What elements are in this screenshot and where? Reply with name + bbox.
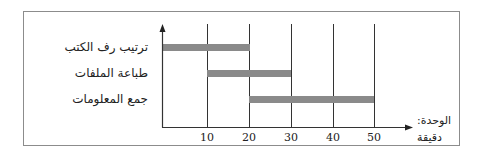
bar-task-2 bbox=[207, 70, 291, 77]
task-label-2: طباعة الملفات bbox=[75, 66, 148, 80]
tick-label-20: 20 bbox=[242, 131, 256, 144]
tick-label-10: 10 bbox=[200, 131, 214, 144]
tick-label-30: 30 bbox=[284, 131, 298, 144]
x-axis-arrow-icon bbox=[405, 125, 413, 131]
unit-label-line1: الوحدة: bbox=[417, 114, 451, 127]
tick-label-40: 40 bbox=[326, 131, 340, 144]
task-label-1: ترتيب رف الكتب bbox=[64, 40, 148, 54]
bar-task-3 bbox=[249, 96, 374, 103]
unit-label-line2: دقيقة bbox=[417, 131, 442, 144]
bar-task-1 bbox=[163, 44, 250, 51]
task-label-3: جمع المعلومات bbox=[72, 92, 148, 106]
y-axis-arrow-icon bbox=[160, 24, 166, 32]
task-bars bbox=[163, 44, 374, 103]
tick-label-50: 50 bbox=[367, 131, 381, 144]
